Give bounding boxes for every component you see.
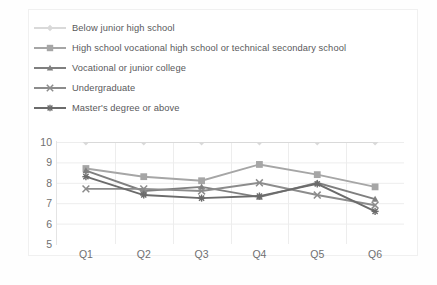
- diamond-marker-icon: [372, 142, 379, 145]
- y-axis-tick-label: 8: [30, 177, 52, 189]
- diamond-marker-icon: [256, 142, 263, 145]
- asterisk-marker-icon: [140, 191, 147, 198]
- x-marker-icon: [47, 85, 53, 91]
- legend-item[interactable]: Master's degree or above: [34, 98, 404, 118]
- asterisk-marker-icon: [82, 173, 89, 180]
- legend-marker: [34, 62, 66, 74]
- series-line: [86, 164, 375, 186]
- legend-item-label: Master's degree or above: [72, 103, 180, 113]
- square-marker-icon: [372, 183, 379, 190]
- series-line: [86, 177, 375, 212]
- legend-marker: [34, 42, 66, 54]
- diamond-marker-icon: [198, 142, 205, 145]
- x-marker-icon: [44, 82, 56, 94]
- asterisk-marker-icon: [198, 195, 205, 202]
- y-axis-tick-label: 10: [30, 136, 52, 148]
- series-diamond: [83, 142, 379, 145]
- legend-item-label: High school vocational high school or te…: [72, 43, 346, 53]
- legend-marker: [34, 22, 66, 34]
- y-axis-tick-label: 7: [30, 197, 52, 209]
- asterisk-marker-icon: [47, 105, 54, 112]
- asterisk-marker-icon: [314, 180, 321, 187]
- square-marker-icon: [44, 42, 56, 54]
- legend-item[interactable]: Vocational or junior college: [34, 58, 404, 78]
- y-axis: 1098765: [22, 142, 52, 244]
- legend-item[interactable]: Undergraduate: [34, 78, 404, 98]
- square-marker-icon: [47, 45, 53, 51]
- legend-item-label: Vocational or junior college: [72, 63, 186, 73]
- square-marker-icon: [198, 177, 205, 184]
- diamond-marker-icon: [140, 142, 147, 145]
- legend-item[interactable]: High school vocational high school or te…: [34, 38, 404, 58]
- diamond-marker-icon: [314, 142, 321, 145]
- legend-item-label: Undergraduate: [72, 83, 135, 93]
- square-marker-icon: [256, 161, 263, 168]
- series-lines: [57, 142, 404, 244]
- square-marker-icon: [314, 171, 321, 178]
- asterisk-marker-icon: [256, 192, 263, 199]
- y-axis-tick-label: 5: [30, 238, 52, 250]
- x-axis-tick-label: Q5: [310, 248, 324, 260]
- diamond-marker-icon: [83, 142, 90, 145]
- legend-marker: [34, 102, 66, 114]
- chart-legend: Below junior high schoolHigh school voca…: [34, 18, 404, 118]
- x-axis: Q1Q2Q3Q4Q5Q6: [57, 248, 404, 264]
- diamond-marker-icon: [47, 25, 53, 31]
- diamond-marker-icon: [44, 22, 56, 34]
- x-axis-tick-label: Q1: [79, 248, 93, 260]
- triangle-marker-icon: [47, 65, 53, 71]
- series-asterisk: [82, 173, 378, 215]
- plot-area: [57, 142, 404, 244]
- chart-screenshot: Below junior high schoolHigh school voca…: [0, 0, 437, 285]
- y-axis-tick-label: 9: [30, 156, 52, 168]
- legend-item-label: Below junior high school: [72, 23, 175, 33]
- square-marker-icon: [140, 173, 147, 180]
- triangle-marker-icon: [44, 62, 56, 74]
- x-axis-tick-label: Q2: [137, 248, 151, 260]
- y-axis-tick-label: 6: [30, 218, 52, 230]
- legend-item[interactable]: Below junior high school: [34, 18, 404, 38]
- asterisk-marker-icon: [372, 208, 379, 215]
- x-axis-tick-label: Q3: [195, 248, 209, 260]
- asterisk-marker-icon: [44, 102, 56, 114]
- legend-marker: [34, 82, 66, 94]
- series-x: [83, 179, 379, 208]
- x-axis-tick-label: Q4: [252, 248, 266, 260]
- x-axis-tick-label: Q6: [368, 248, 382, 260]
